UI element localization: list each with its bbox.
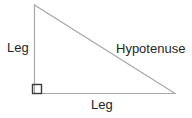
label-leg-horizontal: Leg bbox=[91, 98, 113, 112]
right-angle-square-icon bbox=[33, 85, 42, 94]
label-hypotenuse: Hypotenuse bbox=[116, 42, 185, 56]
triangle-diagram-canvas: Leg Hypotenuse Leg bbox=[0, 0, 192, 118]
label-leg-vertical: Leg bbox=[7, 41, 29, 55]
